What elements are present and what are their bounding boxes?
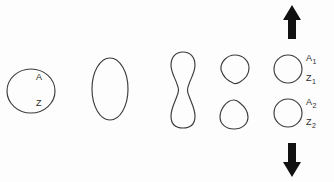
separating-lower-cell-outline bbox=[220, 100, 248, 129]
label-daughter1-nucleus-subscript: 1 bbox=[312, 58, 316, 65]
daughter-cell-2-outline bbox=[274, 99, 302, 127]
label-daughter2-nucleus-subscript: 2 bbox=[312, 102, 316, 109]
stage-1-parent-cell bbox=[7, 69, 55, 113]
label-daughter1-cytoplasm-subscript: 1 bbox=[312, 78, 316, 85]
label-daughter2-nucleus: A2 bbox=[306, 98, 316, 109]
separating-upper-cell-outline bbox=[221, 55, 249, 84]
label-daughter1-cytoplasm-base: Z bbox=[306, 73, 312, 83]
stage-4-separating-cells bbox=[220, 55, 249, 129]
constricting-cell-outline bbox=[171, 52, 195, 128]
up-arrow-icon bbox=[283, 5, 301, 39]
label-daughter2-cytoplasm-subscript: 2 bbox=[312, 122, 316, 129]
elongated-cell-outline bbox=[92, 58, 128, 120]
up-arrow-shape bbox=[283, 5, 301, 39]
label-daughter2-cytoplasm-base: Z bbox=[306, 117, 312, 127]
down-arrow-icon bbox=[283, 143, 301, 177]
label-parent-cytoplasm: Z bbox=[36, 99, 42, 108]
daughter-cell-1-outline bbox=[274, 55, 302, 83]
stage-2-elongated-cell bbox=[92, 58, 128, 120]
parent-cell-outline bbox=[7, 69, 55, 113]
down-arrow-shape bbox=[283, 143, 301, 177]
label-parent-nucleus: A bbox=[36, 73, 42, 82]
label-daughter2-cytoplasm: Z2 bbox=[306, 118, 316, 129]
label-daughter1-nucleus: A1 bbox=[306, 54, 316, 65]
stage-3-constricting-cell bbox=[171, 52, 195, 128]
stage-5-separated-cells bbox=[274, 55, 302, 127]
figure-canvas bbox=[0, 0, 334, 182]
cell-division-figure: A Z A1 Z1 A2 Z2 bbox=[0, 0, 334, 182]
label-daughter1-cytoplasm: Z1 bbox=[306, 74, 316, 85]
